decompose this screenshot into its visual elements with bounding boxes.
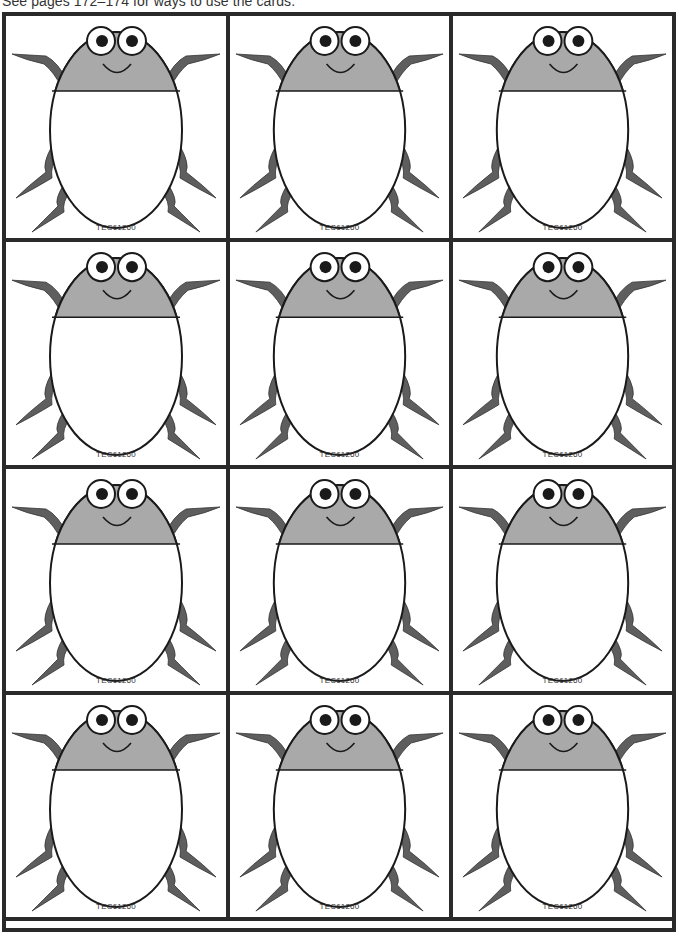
bug-illustration-icon [6, 695, 226, 917]
card-code: TEC61260 [453, 676, 672, 685]
bug-illustration-icon [230, 695, 449, 917]
bug-card: TEC61260 [230, 16, 453, 242]
card-code: TEC61260 [230, 450, 449, 459]
card-code: TEC61260 [230, 223, 449, 232]
instruction-text: See pages 172–174 for ways to use the ca… [2, 0, 295, 9]
bug-illustration-icon [6, 469, 226, 691]
card-code: TEC61260 [453, 223, 672, 232]
card-code: TEC61260 [6, 450, 226, 459]
bug-illustration-icon [453, 16, 672, 238]
bug-illustration-icon [6, 242, 226, 465]
bug-illustration-icon [453, 695, 672, 917]
bug-card: TEC61260 [6, 16, 230, 242]
card-code: TEC61260 [6, 223, 226, 232]
bug-illustration-icon [453, 242, 672, 465]
card-code: TEC61260 [230, 902, 449, 911]
bug-card: TEC61260 [6, 695, 230, 921]
bug-card: TEC61260 [453, 695, 672, 921]
bug-illustration-icon [230, 16, 449, 238]
bug-illustration-icon [230, 242, 449, 465]
card-code: TEC61260 [6, 676, 226, 685]
bug-card: TEC61260 [230, 469, 453, 695]
card-code: TEC61260 [6, 902, 226, 911]
bug-illustration-icon [230, 469, 449, 691]
bug-card: TEC61260 [453, 469, 672, 695]
bug-card: TEC61260 [6, 242, 230, 469]
bug-card: TEC61260 [6, 469, 230, 695]
card-code: TEC61260 [453, 902, 672, 911]
bug-illustration-icon [453, 469, 672, 691]
bug-card-grid: TEC61260 TEC61260 [2, 12, 676, 932]
bug-illustration-icon [6, 16, 226, 238]
bug-card: TEC61260 [230, 242, 453, 469]
bug-card: TEC61260 [230, 695, 453, 921]
bug-card: TEC61260 [453, 242, 672, 469]
bug-card: TEC61260 [453, 16, 672, 242]
card-code: TEC61260 [453, 450, 672, 459]
card-code: TEC61260 [230, 676, 449, 685]
